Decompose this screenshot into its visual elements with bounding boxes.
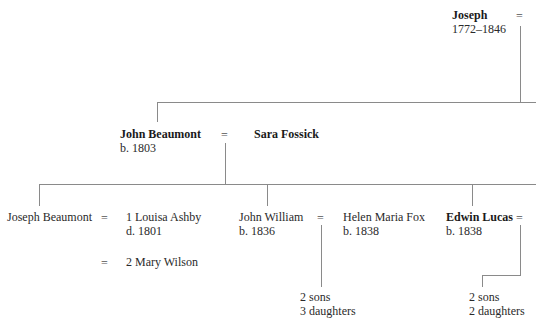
person-john-william-name: John William [239, 210, 303, 224]
descent-line-john-helen [321, 225, 322, 287]
person-john-beaumont-name: John Beaumont [120, 127, 201, 141]
person-helen-maria-fox-dates: b. 1838 [343, 224, 379, 238]
connector-edwin-lucas [472, 184, 473, 206]
marriage-symbol-john-helen: = [317, 211, 324, 225]
connector-joseph-beaumont [39, 184, 40, 206]
person-joseph-beaumont-name: Joseph Beaumont [7, 210, 92, 224]
descent-line-john-sara [225, 143, 226, 184]
marriage-symbol-john-sara: = [221, 128, 228, 142]
descent-line-joseph [520, 26, 521, 103]
marriage-symbol-joseph-mary: = [101, 256, 108, 270]
children-john-william-sons: 2 sons [300, 290, 330, 304]
person-louisa-ashby-dates: d. 1801 [126, 224, 162, 238]
person-louisa-ashby-name: 1 Louisa Ashby [126, 210, 201, 224]
person-john-beaumont-dates: b. 1803 [120, 141, 156, 155]
children-john-william-daughters: 3 daughters [300, 304, 356, 318]
person-helen-maria-fox-name: Helen Maria Fox [343, 210, 425, 224]
person-john-william-dates: b. 1836 [239, 224, 275, 238]
marriage-symbol-joseph: = [516, 9, 523, 23]
person-mary-wilson-name: 2 Mary Wilson [126, 255, 198, 269]
person-joseph-name: Joseph [452, 8, 487, 22]
person-edwin-lucas-name: Edwin Lucas [446, 210, 513, 224]
children-edwin-lucas-daughters: 2 daughters [469, 304, 525, 318]
descent-line-edwin-2 [482, 275, 521, 276]
marriage-symbol-joseph-louisa: = [101, 211, 108, 225]
sibling-line-gen3 [39, 184, 536, 185]
person-edwin-lucas-dates: b. 1838 [446, 224, 482, 238]
children-edwin-lucas-sons: 2 sons [469, 290, 499, 304]
descent-line-edwin-3 [482, 275, 483, 287]
person-joseph-dates: 1772–1846 [452, 22, 506, 36]
sibling-line-gen2 [157, 102, 536, 103]
marriage-symbol-edwin: = [516, 211, 523, 225]
person-sara-fossick-name: Sara Fossick [254, 127, 319, 141]
connector-john-william [267, 184, 268, 206]
connector-john-beaumont [157, 102, 158, 122]
descent-line-edwin-1 [520, 225, 521, 275]
